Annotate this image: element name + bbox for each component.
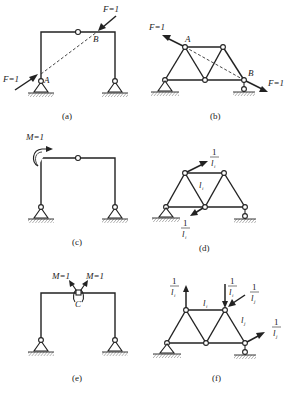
crown-hinge [76, 156, 81, 161]
caption-f: (f) [212, 373, 221, 383]
svg-text:1: 1 [183, 218, 188, 228]
label-member: l i [199, 180, 204, 191]
label-f1: 1 l i [170, 276, 179, 298]
crown-hinge [76, 30, 81, 35]
pin-support-left [28, 338, 54, 356]
panel-b: F=1 F=1 A B (b) [148, 22, 284, 121]
pin-support-right [102, 79, 128, 97]
svg-text:j: j [253, 299, 256, 304]
svg-text:1: 1 [212, 147, 217, 157]
caption-b: (b) [210, 111, 221, 121]
force-arrow-b [98, 16, 116, 31]
label-f3: 1 l j [250, 282, 259, 304]
truss-members [167, 310, 245, 343]
label-member-j: l j [241, 315, 246, 326]
moment-arrow-right [81, 280, 88, 302]
pin-support-right [102, 205, 128, 223]
label-m-left: M=1 [51, 271, 70, 281]
label-a: A [184, 34, 191, 44]
force-arrow-top [187, 161, 208, 172]
svg-text:1: 1 [172, 276, 177, 286]
svg-text:i: i [214, 164, 216, 169]
panel-a: F=1 F=1 A B (a) [2, 4, 128, 121]
pin-support-right [102, 338, 128, 356]
force-arrow-a [162, 35, 183, 46]
label-m: M=1 [25, 132, 44, 142]
label-f4: 1 l j [272, 317, 281, 339]
caption-a: (a) [62, 111, 72, 121]
line-ab [41, 32, 97, 74]
structural-diagram: F=1 F=1 A B (a) [0, 0, 292, 394]
label-b: B [248, 68, 254, 78]
label-f-top: F=1 [102, 4, 119, 14]
caption-d: (d) [199, 243, 210, 253]
pin-support-left [28, 79, 54, 97]
label-a: A [43, 75, 50, 85]
label-b: B [93, 34, 99, 44]
label-member-i: l i [203, 298, 208, 309]
svg-text:i: i [232, 293, 234, 298]
truss-members [165, 47, 244, 80]
roller-support-right [234, 345, 256, 359]
svg-text:j: j [243, 321, 246, 326]
frame-members [41, 32, 115, 82]
moment-arrow [33, 146, 53, 166]
label-force-bottom: 1 l i [181, 218, 190, 240]
svg-text:i: i [185, 235, 187, 240]
pin-support-left [28, 205, 54, 223]
panel-f: 1 l i 1 l i 1 l j 1 l j l i l j [153, 276, 281, 383]
hinge-c [76, 290, 81, 295]
panel-c: M=1 (c) [25, 132, 128, 247]
roller-support-right [234, 209, 256, 223]
svg-text:j: j [275, 334, 278, 339]
caption-e: (e) [72, 373, 82, 383]
caption-c: (c) [72, 237, 82, 247]
force-arrow-down [222, 284, 228, 308]
label-m-right: M=1 [85, 271, 104, 281]
label-c: C [75, 299, 82, 309]
svg-text:i: i [202, 186, 204, 191]
force-arrow-up [183, 285, 189, 308]
panel-e: M=1 M=1 C (e) [28, 271, 128, 383]
force-arrow-b [246, 81, 268, 92]
label-f2: 1 l i [228, 276, 237, 298]
label-f-left: F=1 [148, 22, 165, 32]
label-force-top: 1 l i [210, 147, 219, 169]
force-arrow-bottom [190, 208, 203, 216]
svg-text:1: 1 [230, 276, 235, 286]
svg-text:1: 1 [274, 317, 279, 327]
svg-text:i: i [206, 304, 208, 309]
truss-members [166, 173, 245, 207]
force-arrow-diag-bottom [247, 332, 265, 342]
pin-support-left [151, 81, 179, 96]
frame-members [41, 158, 115, 208]
svg-text:1: 1 [252, 282, 257, 292]
svg-text:i: i [174, 293, 176, 298]
label-f-right: F=1 [267, 78, 284, 88]
pin-support-left [153, 344, 181, 358]
pin-support-left [152, 208, 180, 222]
panel-d: 1 l i l i 1 l i (d) [152, 147, 256, 253]
label-f-left: F=1 [2, 74, 19, 84]
